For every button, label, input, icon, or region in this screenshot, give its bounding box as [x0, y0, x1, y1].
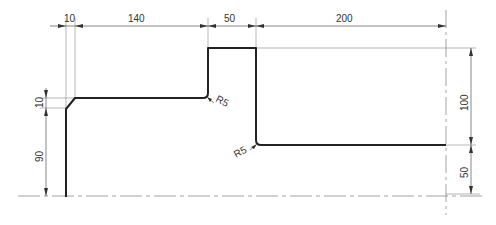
dim-label-200: 200 [336, 13, 353, 24]
dim-label-100: 100 [459, 94, 470, 111]
top-dimension-chain [50, 24, 446, 28]
dim-label-50-top: 50 [224, 13, 236, 24]
shaft-profile [66, 48, 446, 197]
dim-label-90: 90 [34, 150, 45, 162]
radius-label-step2: R5 [232, 144, 249, 160]
radius-leaders [207, 97, 257, 150]
dim-label-10-left: 10 [34, 96, 45, 108]
extension-lines [40, 18, 480, 194]
technical-drawing: 10 140 50 200 10 90 100 50 R5 R5 [0, 0, 496, 225]
dim-label-140: 140 [128, 13, 145, 24]
dim-label-10-top: 10 [64, 13, 76, 24]
radius-label-step1: R5 [214, 93, 231, 109]
dim-label-50-right: 50 [459, 166, 470, 178]
